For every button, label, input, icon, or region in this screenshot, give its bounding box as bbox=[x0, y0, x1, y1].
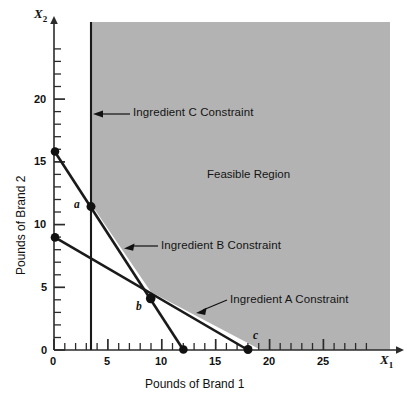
y-axis-arrow-icon bbox=[50, 16, 58, 24]
x-axis-symbol: X1 bbox=[380, 352, 393, 370]
y-tick-label-15: 15 bbox=[34, 155, 46, 167]
x-axis-symbol-subscript: 1 bbox=[389, 360, 394, 370]
marker-point-a bbox=[87, 202, 96, 211]
ingredient-a-constraint-label: Ingredient A Constraint bbox=[230, 293, 349, 305]
point-a-label: a bbox=[74, 198, 80, 210]
y-tick-label-5: 5 bbox=[41, 281, 47, 293]
marker-point-c bbox=[244, 345, 253, 354]
x-tick-label-20: 20 bbox=[263, 355, 275, 367]
marker-b-y-intercept bbox=[51, 147, 60, 156]
x-tick-label-10: 10 bbox=[155, 355, 167, 367]
x-tick-label-25: 25 bbox=[317, 355, 329, 367]
point-c-label: c bbox=[253, 329, 258, 341]
y-axis-caption: Pounds of Brand 2 bbox=[14, 176, 28, 275]
y-tick-label-20: 20 bbox=[34, 93, 46, 105]
x-axis-caption: Pounds of Brand 1 bbox=[145, 377, 244, 391]
y-tick-label-0: 0 bbox=[41, 344, 47, 356]
figure-canvas: 0 5 10 15 20 25 0 5 10 15 20 X1 X2 Pound… bbox=[0, 0, 407, 402]
y-axis-minor-ticks bbox=[54, 49, 61, 338]
point-b-label: b bbox=[136, 300, 142, 312]
marker-a-y-intercept bbox=[51, 233, 60, 242]
x-axis-arrow-icon bbox=[396, 346, 404, 354]
y-tick-label-10: 10 bbox=[34, 218, 46, 230]
y-axis-symbol-text: X bbox=[34, 6, 43, 21]
y-axis-symbol-subscript: 2 bbox=[43, 14, 48, 24]
y-axis-symbol: X2 bbox=[34, 6, 47, 24]
feasible-region-label: Feasible Region bbox=[207, 168, 290, 180]
ingredient-b-constraint-label: Ingredient B Constraint bbox=[161, 239, 281, 251]
x-axis-symbol-text: X bbox=[380, 352, 389, 367]
x-tick-label-5: 5 bbox=[104, 355, 110, 367]
marker-b-x-intercept bbox=[179, 345, 188, 354]
ingredient-c-constraint-label: Ingredient C Constraint bbox=[133, 106, 254, 118]
x-tick-label-15: 15 bbox=[209, 355, 221, 367]
x-tick-label-0: 0 bbox=[50, 355, 56, 367]
marker-point-b bbox=[146, 294, 156, 304]
plot-svg bbox=[0, 0, 407, 402]
